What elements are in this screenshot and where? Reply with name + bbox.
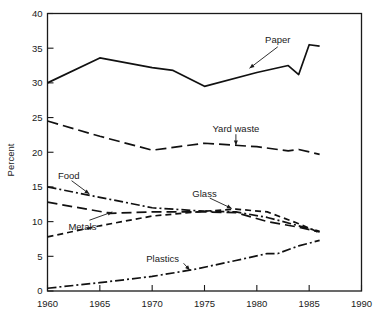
series-label-plastics: Plastics bbox=[146, 253, 179, 264]
y-tick-label: 20 bbox=[32, 147, 43, 158]
x-tick-label: 1985 bbox=[299, 298, 320, 309]
y-tick-label: 15 bbox=[32, 181, 43, 192]
line-chart: 0510152025303540 19601965197019751980198… bbox=[0, 0, 384, 325]
y-tick-label: 0 bbox=[37, 285, 42, 296]
series-label-metals: Metals bbox=[68, 221, 96, 232]
x-tick-label: 1990 bbox=[351, 298, 372, 309]
y-tick-label: 5 bbox=[37, 251, 42, 262]
series-label-paper: Paper bbox=[265, 34, 290, 45]
x-tick-label: 1970 bbox=[142, 298, 163, 309]
y-tick-label: 25 bbox=[32, 112, 43, 123]
series-label-glass: Glass bbox=[192, 188, 217, 199]
y-tick-label: 40 bbox=[32, 8, 43, 19]
x-tick-label: 1960 bbox=[37, 298, 58, 309]
series-label-yard-waste: Yard waste bbox=[212, 123, 259, 134]
series-label-food: Food bbox=[58, 170, 80, 181]
x-tick-label: 1975 bbox=[194, 298, 215, 309]
y-tick-label: 35 bbox=[32, 43, 43, 54]
y-tick-label: 30 bbox=[32, 77, 43, 88]
x-tick-label: 1965 bbox=[89, 298, 110, 309]
y-tick-label: 10 bbox=[32, 216, 43, 227]
chart-background bbox=[0, 0, 384, 325]
chart-container: 0510152025303540 19601965197019751980198… bbox=[0, 0, 384, 325]
x-tick-label: 1980 bbox=[246, 298, 267, 309]
y-axis-title: Percent bbox=[5, 143, 16, 176]
